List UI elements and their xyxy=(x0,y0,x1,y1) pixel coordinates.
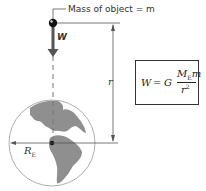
mass-label: Mass of object = m xyxy=(68,4,155,14)
distance-r-arrowhead-top xyxy=(111,24,115,31)
weight-arrow-shaft xyxy=(52,27,55,50)
formula-equals: = xyxy=(153,77,161,88)
formula-numerator-mass: M xyxy=(177,68,187,79)
mass-leader-line xyxy=(53,9,66,19)
earth-radius-label: RE xyxy=(24,145,36,158)
distance-label: r xyxy=(108,76,113,87)
formula-denominator-exponent: 2 xyxy=(186,83,190,90)
formula-denominator: r2 xyxy=(181,83,190,95)
formula-lhs: W xyxy=(141,77,151,88)
mass-ball-highlight xyxy=(50,20,52,22)
formula-constant: G xyxy=(164,77,172,88)
weight-arrowhead xyxy=(48,49,59,57)
formula-numerator: MEm xyxy=(177,68,201,81)
weight-label: W xyxy=(57,32,67,42)
formula-numerator-m: m xyxy=(192,68,201,79)
distance-r-arrowhead-bottom xyxy=(111,135,115,142)
formula-box: W = G MEm r2 xyxy=(135,60,199,105)
earth-radius-symbol: R xyxy=(24,145,32,156)
earth-radius-subscript: E xyxy=(32,151,36,158)
mass-ball xyxy=(49,19,57,27)
